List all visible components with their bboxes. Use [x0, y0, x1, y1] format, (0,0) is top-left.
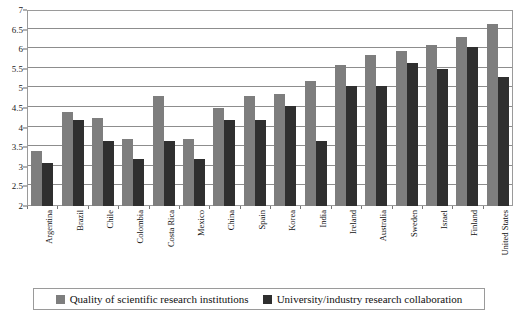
- x-axis-label-cell: Costa Rica: [149, 207, 179, 283]
- x-tick-mark: [88, 206, 89, 209]
- x-tick-label: Australia: [379, 210, 388, 241]
- x-tick-label: Costa Rica: [167, 210, 176, 247]
- x-tick-label: Finland: [470, 210, 479, 236]
- x-tick-label: United States: [501, 210, 510, 256]
- bar: [31, 151, 42, 206]
- bar-group: [300, 10, 330, 206]
- bar: [133, 159, 144, 206]
- bar-group: [88, 10, 118, 206]
- bar-group: [27, 10, 57, 206]
- bar: [376, 86, 387, 206]
- x-tick-label: Colombia: [136, 210, 145, 244]
- x-tick-label: Sweden: [410, 210, 419, 237]
- bar-group: [57, 10, 87, 206]
- x-axis-label-cell: Sweden: [392, 207, 422, 283]
- bar: [426, 45, 437, 206]
- bar: [285, 106, 296, 206]
- x-tick-mark: [57, 206, 58, 209]
- x-tick-label: Brazil: [76, 210, 85, 231]
- y-tick-label: 3.5: [12, 143, 23, 152]
- x-axis-label-cell: Spain: [240, 207, 270, 283]
- bar: [42, 163, 53, 206]
- bar: [305, 81, 316, 206]
- bar-group: [179, 10, 209, 206]
- bar: [92, 118, 103, 206]
- x-tick-label: China: [227, 210, 236, 230]
- plot-wrapper: [27, 10, 513, 206]
- bar: [487, 24, 498, 206]
- legend-entry: Quality of scientific research instituti…: [56, 293, 249, 305]
- x-axis-label-cell: Brazil: [57, 207, 87, 283]
- x-axis-label-cell: Argentina: [27, 207, 57, 283]
- bar: [183, 139, 194, 206]
- x-tick-mark: [179, 206, 180, 209]
- y-axis: 22.533.544.555.566.57: [0, 0, 27, 216]
- bar: [224, 120, 235, 206]
- bar: [164, 141, 175, 206]
- bar: [213, 108, 224, 206]
- y-tick-label: 2.5: [12, 182, 23, 191]
- bar: [346, 86, 357, 206]
- bar-group: [270, 10, 300, 206]
- x-tick-mark: [331, 206, 332, 209]
- legend-label: Quality of scientific research instituti…: [70, 293, 249, 305]
- bar: [467, 47, 478, 206]
- y-tick-label: 4.5: [12, 104, 23, 113]
- legend-swatch-icon: [56, 295, 65, 304]
- x-axis-label-cell: Ireland: [331, 207, 361, 283]
- x-axis-label-cell: Korea: [270, 207, 300, 283]
- x-tick-mark: [27, 206, 28, 209]
- x-axis-label-cell: China: [209, 207, 239, 283]
- y-tick-label: 5.5: [12, 64, 23, 73]
- bar: [316, 141, 327, 206]
- bar-group: [392, 10, 422, 206]
- x-tick-mark: [240, 206, 241, 209]
- bar-group: [149, 10, 179, 206]
- x-axis-label-cell: Australia: [361, 207, 391, 283]
- y-tick-label: 6.5: [12, 25, 23, 34]
- x-axis-label-cell: United States: [483, 207, 513, 283]
- x-tick-label: Mexico: [197, 210, 206, 236]
- x-tick-mark: [300, 206, 301, 209]
- x-axis-label-cell: Israel: [422, 207, 452, 283]
- bar: [396, 51, 407, 206]
- bar: [437, 69, 448, 206]
- bar: [274, 94, 285, 206]
- x-axis-label-cell: Mexico: [179, 207, 209, 283]
- x-axis-label-cell: India: [300, 207, 330, 283]
- x-tick-label: Israel: [440, 210, 449, 229]
- bar-group: [483, 10, 513, 206]
- bar-group: [331, 10, 361, 206]
- bars-layer: [27, 10, 513, 206]
- bar: [255, 120, 266, 206]
- bar: [335, 65, 346, 206]
- x-axis-label-cell: Colombia: [118, 207, 148, 283]
- x-tick-label: Argentina: [45, 210, 54, 244]
- chart-figure: 22.533.544.555.566.57 ArgentinaBrazilChi…: [0, 0, 519, 318]
- bar-group: [422, 10, 452, 206]
- x-tick-mark: [118, 206, 119, 209]
- bar: [153, 96, 164, 206]
- bar: [122, 139, 133, 206]
- bar-group: [452, 10, 482, 206]
- bar: [73, 120, 84, 206]
- x-tick-mark: [270, 206, 271, 209]
- x-tick-mark: [452, 206, 453, 209]
- x-tick-mark: [392, 206, 393, 209]
- legend-swatch-icon: [263, 295, 272, 304]
- bar-group: [361, 10, 391, 206]
- x-tick-mark: [422, 206, 423, 209]
- bar: [103, 141, 114, 206]
- bar: [194, 159, 205, 206]
- chart-legend: Quality of scientific research instituti…: [33, 288, 485, 310]
- bar-group: [118, 10, 148, 206]
- bar-group: [240, 10, 270, 206]
- x-tick-label: Spain: [258, 210, 267, 229]
- x-axis-label-cell: Finland: [452, 207, 482, 283]
- x-tick-mark: [483, 206, 484, 209]
- legend-entry: University/industry research collaborati…: [263, 293, 463, 305]
- bar: [365, 55, 376, 206]
- x-tick-mark: [149, 206, 150, 209]
- x-tick-label: Chile: [106, 210, 115, 228]
- bar: [407, 63, 418, 206]
